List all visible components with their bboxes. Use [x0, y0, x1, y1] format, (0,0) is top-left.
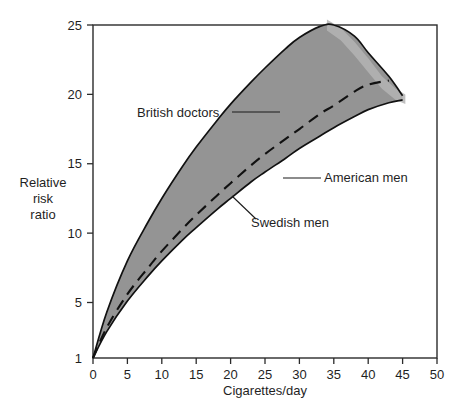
x-tick-label-35: 35	[327, 367, 341, 382]
x-axis-title: Cigarettes/day	[223, 383, 307, 398]
x-tick-label-45: 45	[395, 367, 409, 382]
chart-container: 05101520253035404550 1510152025 Cigarett…	[0, 0, 453, 415]
relative-risk-chart: 05101520253035404550 1510152025 Cigarett…	[0, 0, 453, 415]
y-axis-title: Relative risk ratio	[20, 175, 67, 222]
x-tick-label-50: 50	[430, 367, 444, 382]
x-axis-tick-labels: 05101520253035404550	[89, 367, 444, 382]
y-tick-label-20: 20	[68, 87, 82, 102]
x-tick-label-40: 40	[361, 367, 375, 382]
y-axis-tick-labels: 1510152025	[68, 18, 82, 366]
y-axis-title-line-1: Relative	[20, 175, 67, 190]
x-tick-label-30: 30	[292, 367, 306, 382]
annotation-swedish-men: Swedish men	[251, 215, 329, 230]
x-tick-label-15: 15	[189, 367, 203, 382]
y-axis-title-line-3: ratio	[30, 207, 55, 222]
y-tick-label-15: 15	[68, 156, 82, 171]
y-tick-label-25: 25	[68, 18, 82, 33]
x-tick-label-25: 25	[258, 367, 272, 382]
x-tick-label-10: 10	[155, 367, 169, 382]
x-axis-ticks	[93, 358, 437, 364]
annotation-british-doctors: British doctors	[137, 105, 220, 120]
y-tick-label-10: 10	[68, 226, 82, 241]
y-tick-label-1: 1	[75, 351, 82, 366]
y-tick-label-5: 5	[75, 295, 82, 310]
x-tick-label-5: 5	[124, 367, 131, 382]
x-tick-label-20: 20	[223, 367, 237, 382]
x-tick-label-0: 0	[89, 367, 96, 382]
y-axis-title-line-2: risk	[33, 191, 54, 206]
y-axis-ticks	[87, 25, 93, 303]
annotation-american-men: American men	[324, 170, 408, 185]
